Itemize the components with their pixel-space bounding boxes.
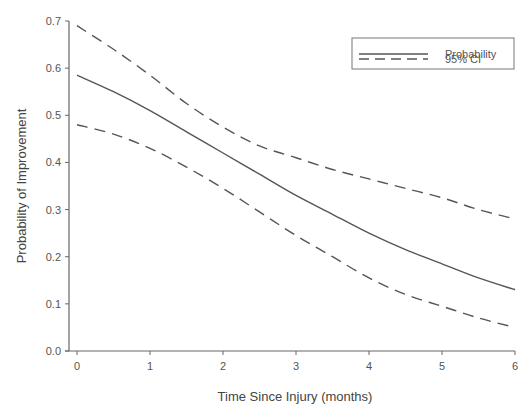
x-tick-label: 6 <box>512 360 518 372</box>
y-tick-label: 0.1 <box>46 298 61 310</box>
y-tick-label: 0.4 <box>46 156 61 168</box>
y-tick-label: 0.3 <box>46 204 61 216</box>
x-tick-label: 0 <box>74 360 80 372</box>
x-tick-label: 3 <box>293 360 299 372</box>
x-tick-label: 4 <box>366 360 372 372</box>
legend-label-ci: 95% CI <box>445 53 481 65</box>
y-tick-label: 0.0 <box>46 345 61 357</box>
y-axis-title: Probability of Improvement <box>14 108 29 263</box>
y-tick-label: 0.6 <box>46 62 61 74</box>
x-tick-label: 5 <box>439 360 445 372</box>
x-tick-label: 1 <box>147 360 153 372</box>
x-tick-label: 2 <box>220 360 226 372</box>
y-tick-label: 0.5 <box>46 109 61 121</box>
y-tick-label: 0.2 <box>46 251 61 263</box>
legend: Probability 95% CI <box>352 38 514 69</box>
chart: 0.00.10.20.30.40.50.60.70123456 Time Sin… <box>0 0 532 419</box>
x-axis-title: Time Since Injury (months) <box>218 389 373 404</box>
ci-lower-line <box>77 125 515 328</box>
plot-area <box>77 26 515 328</box>
y-tick-label: 0.7 <box>46 15 61 27</box>
probability-line <box>77 75 515 290</box>
